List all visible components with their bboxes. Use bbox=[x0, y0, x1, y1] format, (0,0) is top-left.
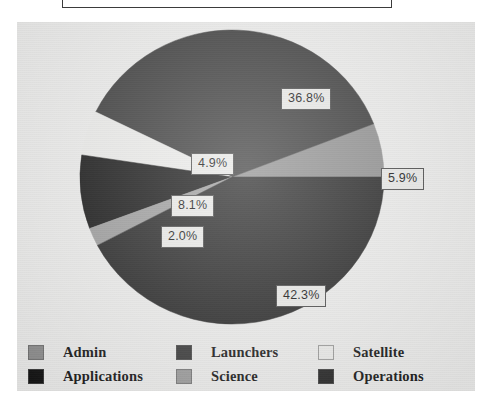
pie-svg bbox=[72, 27, 392, 327]
legend-swatch-icon bbox=[318, 345, 334, 360]
legend-item-label: Operations bbox=[353, 368, 424, 385]
pie-slice-label: 2.0% bbox=[161, 226, 204, 248]
legend-item[interactable]: Satellite bbox=[318, 340, 468, 364]
legend-item[interactable]: Operations bbox=[318, 364, 468, 388]
legend-item-label: Admin bbox=[63, 344, 106, 361]
legend-column-1: Admin Applications bbox=[28, 340, 178, 388]
caption-box-partial bbox=[62, 0, 392, 8]
pie-slice-label: 4.9% bbox=[191, 153, 234, 175]
legend-item[interactable]: Launchers bbox=[176, 340, 326, 364]
legend-swatch-icon bbox=[176, 369, 192, 384]
legend-swatch-icon bbox=[176, 345, 192, 360]
pie-slice-label: 36.8% bbox=[281, 88, 331, 110]
pie-slice-label: 8.1% bbox=[171, 195, 214, 217]
chart-plate: 5.9%36.8%4.9%8.1%2.0%42.3% Admin Applica… bbox=[17, 22, 475, 391]
pie-chart: 5.9%36.8%4.9%8.1%2.0%42.3% bbox=[72, 27, 392, 327]
legend-column-2: Launchers Science bbox=[176, 340, 326, 388]
legend: Admin Applications Launchers Science bbox=[28, 340, 464, 388]
legend-item-label: Science bbox=[211, 368, 258, 385]
legend-swatch-icon bbox=[318, 369, 334, 384]
legend-swatch-icon bbox=[28, 369, 44, 384]
pie-slice-label: 42.3% bbox=[276, 285, 326, 307]
legend-item[interactable]: Science bbox=[176, 364, 326, 388]
figure-page: 5.9%36.8%4.9%8.1%2.0%42.3% Admin Applica… bbox=[0, 0, 492, 414]
legend-item-label: Applications bbox=[63, 368, 143, 385]
pie-slice-label: 5.9% bbox=[381, 168, 424, 190]
legend-item-label: Satellite bbox=[353, 344, 404, 361]
pie-slice-group bbox=[80, 30, 384, 324]
legend-swatch-icon bbox=[28, 345, 44, 360]
legend-item-label: Launchers bbox=[211, 344, 278, 361]
legend-item[interactable]: Admin bbox=[28, 340, 178, 364]
legend-column-3: Satellite Operations bbox=[318, 340, 468, 388]
legend-item[interactable]: Applications bbox=[28, 364, 178, 388]
